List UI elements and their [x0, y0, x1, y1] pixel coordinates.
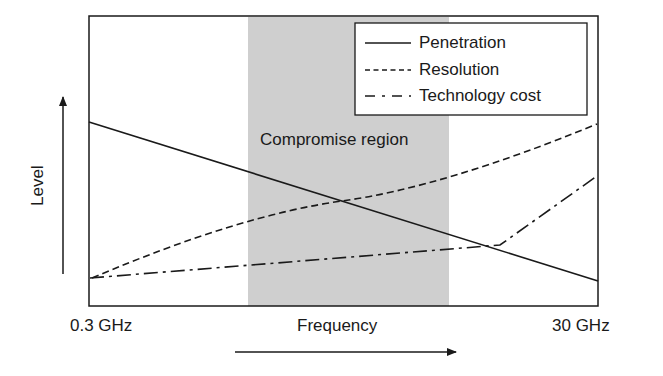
legend-label-technology-cost: Technology cost	[419, 86, 541, 106]
x-axis-title: Frequency	[297, 316, 377, 336]
region-label: Compromise region	[260, 130, 408, 150]
y-axis-title: Level	[28, 166, 48, 206]
x-max-label: 30 GHz	[552, 316, 610, 336]
legend-label-penetration: Penetration	[419, 33, 506, 53]
legend-label-resolution: Resolution	[419, 60, 499, 80]
x-min-label: 0.3 GHz	[70, 316, 132, 336]
